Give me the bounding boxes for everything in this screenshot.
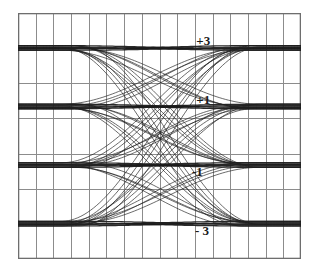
level-label-minus-1: -1	[192, 165, 203, 178]
level-label-minus-3: - 3	[195, 224, 209, 237]
eye-diagram-figure: +3 +1 -1 - 3	[0, 0, 320, 270]
eye-diagram-canvas	[18, 13, 301, 259]
plot-area	[18, 13, 301, 259]
level-label-plus-3: +3	[196, 34, 210, 47]
level-label-plus-1: +1	[196, 93, 210, 106]
